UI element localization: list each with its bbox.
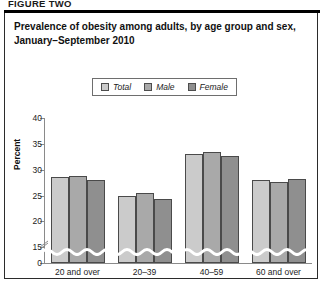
y-tick-label: 30 (16, 165, 42, 175)
legend-item-total: Total (101, 82, 131, 92)
bar-female (87, 180, 105, 263)
bar-group-bars (245, 118, 312, 263)
axis-break-icon (38, 238, 50, 250)
x-tick-label: 60 and over (245, 267, 312, 277)
bar-group-bars (111, 118, 178, 263)
chart-legend: Total Male Female (92, 78, 237, 96)
legend-swatch-total (101, 83, 109, 91)
bar-group: 20 and over (44, 118, 111, 263)
bar-group-bars (44, 118, 111, 263)
x-tick-label: 20–39 (111, 267, 178, 277)
bar-total (185, 154, 203, 263)
chart-plot-area: 015202530354020 and over20–3940–5960 and… (44, 118, 312, 264)
figure-number-label: FIGURE TWO (8, 0, 72, 9)
x-axis-line (44, 263, 312, 264)
page-title: Prevalence of obesity among adults, by a… (14, 20, 304, 48)
bar-group: 60 and over (245, 118, 312, 263)
legend-label-male: Male (156, 82, 174, 92)
bar-male (270, 182, 288, 263)
y-tick-label: 20 (16, 216, 42, 226)
x-tick-label: 40–59 (178, 267, 245, 277)
bar-group-bars (178, 118, 245, 263)
legend-swatch-male (144, 83, 152, 91)
y-tick-label: 40 (16, 113, 42, 123)
figure-panel: FIGURE TWO Prevalence of obesity among a… (0, 0, 327, 281)
bar-total (118, 196, 136, 263)
bar-male (203, 152, 221, 263)
y-tick-label: 35 (16, 139, 42, 149)
bar-male (69, 176, 87, 263)
bar-total (252, 180, 270, 263)
y-tick-label: 0 (16, 258, 42, 268)
y-tick-label: 25 (16, 191, 42, 201)
bar-group: 20–39 (111, 118, 178, 263)
legend-item-male: Male (144, 82, 174, 92)
bar-group: 40–59 (178, 118, 245, 263)
legend-label-total: Total (113, 82, 131, 92)
bar-female (154, 199, 172, 263)
legend-item-female: Female (188, 82, 228, 92)
legend-label-female: Female (200, 82, 228, 92)
x-tick-label: 20 and over (44, 267, 111, 277)
bar-female (288, 179, 306, 263)
legend-swatch-female (188, 83, 196, 91)
bar-total (51, 177, 69, 263)
bar-male (136, 193, 154, 263)
bar-female (221, 156, 239, 263)
